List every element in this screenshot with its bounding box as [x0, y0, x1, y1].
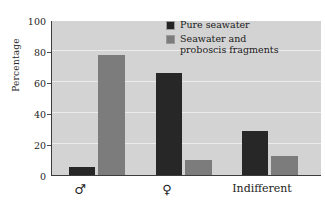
- legend-label-line-1: Seawater and: [180, 33, 246, 44]
- bar-indifferent-seawater-proboscis: [271, 156, 298, 175]
- y-tick-label-100: 100: [20, 17, 46, 27]
- y-tick-label-20: 20: [20, 141, 46, 151]
- x-tick-label-indifferent: Indifferent: [224, 182, 300, 195]
- legend-label-seawater-proboscis: Seawater and proboscis fragments: [180, 33, 279, 56]
- y-tick-label-0: 0: [20, 172, 46, 182]
- bar-indifferent-pure-seawater: [242, 131, 268, 175]
- y-tick-label-40: 40: [20, 110, 46, 120]
- legend-item-pure-seawater: Pure seawater: [166, 19, 316, 31]
- legend-swatch-dark-icon: [166, 21, 175, 30]
- y-tick-label-60: 60: [20, 79, 46, 89]
- legend-item-seawater-proboscis: Seawater and proboscis fragments: [166, 33, 316, 56]
- bar-female-seawater-proboscis: [185, 160, 212, 175]
- chart-legend: Pure seawater Seawater and proboscis fra…: [166, 19, 316, 58]
- gridline-40: [52, 112, 321, 113]
- x-tick-label-male: ♂: [58, 182, 102, 197]
- y-axis-tick-labels: 100 80 60 40 20 0: [12, 0, 46, 217]
- gridline-20: [52, 143, 321, 144]
- legend-swatch-gray-icon: [166, 35, 175, 44]
- y-tick-label-80: 80: [20, 48, 46, 58]
- legend-label-line-2: proboscis fragments: [180, 44, 279, 55]
- bar-female-pure-seawater: [156, 73, 182, 175]
- gridline-60: [52, 81, 321, 82]
- bar-chart-figure: Percentage 100 80 60 40 20 0: [0, 0, 325, 217]
- legend-label-pure-seawater: Pure seawater: [180, 19, 250, 31]
- x-tick-label-female: ♀: [145, 182, 189, 197]
- bar-male-seawater-proboscis: [98, 55, 125, 176]
- bar-male-pure-seawater: [69, 167, 95, 175]
